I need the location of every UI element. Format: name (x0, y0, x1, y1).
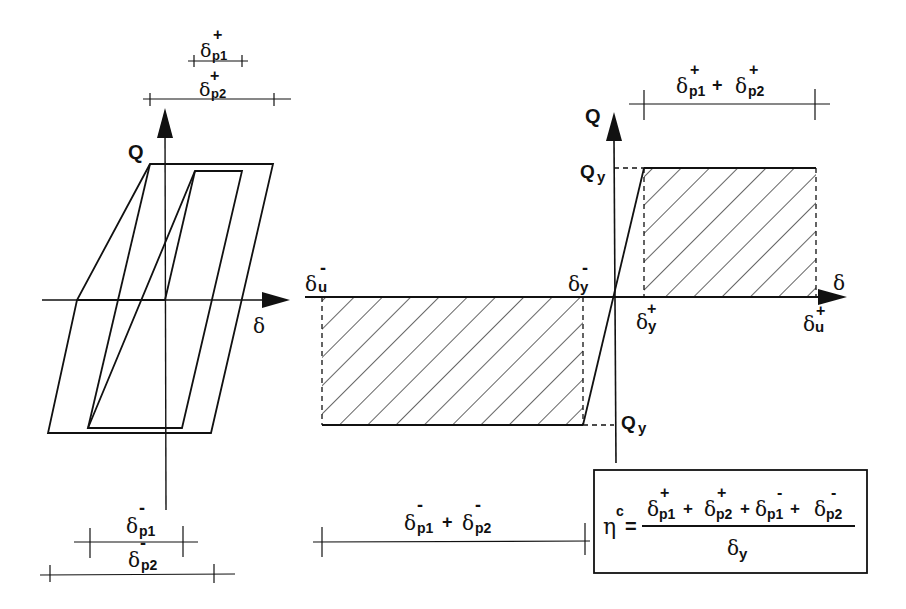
svg-text:δ: δ (735, 74, 747, 98)
outer-loop-left-edge-lower (88, 300, 118, 428)
left-y-axis (165, 130, 166, 510)
svg-text:-: - (140, 533, 146, 553)
svg-text:-: - (417, 495, 423, 515)
eta-superscript: c (616, 503, 624, 519)
svg-text:+: + (712, 75, 723, 95)
left-y-axis-arrow-icon (157, 108, 173, 138)
dim-dp1-dp2-plus: δ p1 + + δ p2 + (629, 61, 830, 120)
dy-plus-label: δ y + (636, 300, 657, 334)
svg-text:δ: δ (568, 272, 580, 296)
left-x-axis-arrow-icon (262, 292, 290, 308)
svg-text:δ: δ (462, 511, 474, 535)
svg-text:+: + (749, 61, 758, 78)
svg-text:p2: p2 (748, 83, 765, 99)
outer-loop-left-edge (118, 164, 150, 300)
right-y-axis-label: Q (585, 105, 601, 127)
svg-text:+: + (647, 300, 656, 317)
svg-text:y: y (648, 317, 657, 334)
dim-dp1-dp2-minus: δ p1 - + δ p2 - (313, 495, 590, 557)
svg-text:p1: p1 (659, 506, 676, 522)
svg-text:+: + (442, 512, 453, 532)
left-y-axis-label: Q (128, 141, 144, 163)
right-y-axis (614, 140, 616, 463)
svg-text:-: - (475, 495, 481, 515)
svg-text:p1: p1 (689, 83, 706, 99)
svg-text:y: y (580, 278, 589, 295)
svg-text:δ: δ (404, 511, 416, 535)
equals-sign: = (625, 515, 637, 537)
svg-text:p2: p2 (716, 506, 733, 522)
svg-text:-: - (777, 484, 782, 501)
svg-text:p1: p1 (417, 520, 434, 536)
svg-text:δ: δ (305, 272, 317, 296)
svg-text:δ: δ (126, 514, 138, 538)
svg-text:u: u (318, 278, 327, 295)
svg-text:-: - (139, 498, 145, 518)
right-y-axis-arrow-icon (606, 112, 622, 141)
positive-plastic-area (644, 168, 816, 297)
initial-loading-line (165, 171, 195, 300)
svg-text:p2: p2 (211, 86, 226, 101)
svg-text:-: - (320, 258, 326, 278)
svg-text:+: + (660, 484, 669, 501)
svg-text:+: + (683, 499, 693, 518)
svg-text:Q: Q (621, 412, 636, 433)
svg-text:δ: δ (755, 497, 767, 521)
svg-text:+: + (210, 67, 219, 84)
svg-text:+: + (690, 61, 699, 78)
du-minus-label: δ u - (305, 258, 327, 296)
svg-text:δ: δ (814, 497, 826, 521)
svg-text:-: - (831, 484, 836, 501)
svg-text:δ: δ (803, 312, 815, 336)
svg-text:+: + (717, 484, 726, 501)
svg-text:+: + (816, 302, 825, 319)
svg-text:δ: δ (199, 78, 210, 100)
svg-text:δ: δ (200, 39, 211, 61)
svg-text:y: y (597, 168, 606, 185)
qy-bottom-label: Q y (621, 412, 647, 436)
svg-text:δ: δ (704, 497, 716, 521)
eta-symbol: η (603, 514, 616, 539)
dy-minus-label: δ y - (568, 258, 589, 296)
svg-text:+: + (213, 26, 222, 43)
dim-dp1-plus: δ p1 + (188, 26, 248, 67)
svg-text:y: y (638, 419, 647, 436)
svg-text:p2: p2 (826, 506, 843, 522)
negative-plastic-area (322, 297, 583, 425)
svg-text:Q: Q (580, 161, 595, 182)
left-hysteresis-plot: Q δ δ p1 + δ p2 + δ p1 - (40, 26, 291, 583)
svg-text:y: y (739, 545, 748, 562)
qy-top-label: Q y (580, 161, 606, 185)
ductility-diagram: Q δ δ p1 + δ p2 + δ p1 - (0, 0, 906, 609)
dim-dp2-minus: δ p2 - (40, 533, 235, 583)
svg-text:+: + (740, 499, 750, 518)
svg-text:-: - (582, 258, 588, 278)
svg-text:δ: δ (727, 536, 739, 560)
svg-text:δ: δ (128, 548, 140, 572)
svg-text:+: + (790, 499, 800, 518)
left-x-axis-label: δ (253, 314, 265, 338)
svg-text:p1: p1 (212, 48, 227, 63)
svg-text:p1: p1 (767, 506, 784, 522)
cumulative-ductility-formula: η c = δ p1 + + δ p2 + + δ p1 - + δ p2 - … (594, 470, 867, 573)
outer-hysteresis-loop (48, 164, 273, 433)
right-cumulative-plot: Q δ Q y Q y δ u - δ y - δ y + δ u + (305, 61, 847, 557)
du-plus-label: δ u + (803, 302, 825, 336)
svg-text:p2: p2 (141, 557, 158, 573)
svg-text:δ: δ (676, 74, 688, 98)
svg-text:u: u (815, 318, 824, 335)
right-x-axis-label: δ (833, 271, 845, 295)
svg-text:δ: δ (647, 497, 659, 521)
dim-dp2-plus: δ p2 + (143, 67, 291, 106)
diagram-canvas: Q δ δ p1 + δ p2 + δ p1 - (0, 0, 906, 609)
svg-text:p2: p2 (475, 520, 492, 536)
